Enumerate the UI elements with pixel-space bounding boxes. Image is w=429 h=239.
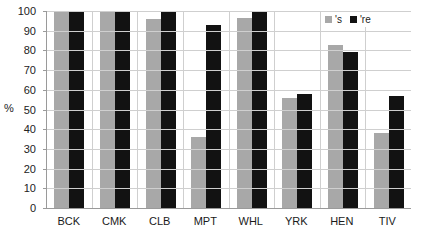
bar	[237, 18, 252, 208]
y-tickmark	[43, 188, 47, 189]
x-tick-label: HEN	[319, 210, 365, 236]
bar	[282, 98, 297, 208]
legend-item[interactable]: 're	[350, 14, 371, 25]
x-tick-label: CMK	[92, 210, 138, 236]
gridline	[47, 110, 411, 111]
y-tick-label: 0	[30, 202, 36, 214]
x-tick-label: TIV	[365, 210, 411, 236]
gridline	[47, 208, 411, 209]
bar	[146, 19, 161, 208]
legend-label: 're	[360, 14, 371, 25]
plot-area	[46, 11, 411, 209]
gridline	[47, 188, 411, 189]
bar-chart: % 1009080706050403020100 BCKCMKCLBMPTWHL…	[0, 0, 429, 239]
y-tick-label: 40	[24, 123, 36, 135]
y-tickmark	[43, 129, 47, 130]
y-tick-label: 100	[18, 5, 36, 17]
y-axis-tick-labels: 1009080706050403020100	[0, 0, 44, 239]
y-tick-label: 80	[24, 44, 36, 56]
x-tick-label: WHL	[228, 210, 274, 236]
legend-swatch-icon	[350, 16, 357, 23]
bar	[343, 52, 358, 208]
bar	[191, 137, 206, 208]
bar	[328, 45, 343, 209]
bar	[297, 94, 312, 208]
y-tickmark	[43, 50, 47, 51]
y-tickmark	[43, 31, 47, 32]
gridline	[47, 169, 411, 170]
y-tick-label: 30	[24, 143, 36, 155]
y-tickmark	[43, 70, 47, 71]
y-tick-label: 50	[24, 104, 36, 116]
gridline	[47, 70, 411, 71]
y-tick-label: 70	[24, 64, 36, 76]
y-tick-label: 60	[24, 84, 36, 96]
y-tickmark	[43, 11, 47, 12]
legend-label: 's	[335, 14, 342, 25]
bar	[206, 25, 221, 208]
y-tick-label: 90	[24, 25, 36, 37]
y-tickmark	[43, 208, 47, 209]
chart-legend: 's're	[322, 12, 374, 27]
bar	[389, 96, 404, 208]
gridline	[47, 149, 411, 150]
y-tick-label: 10	[24, 182, 36, 194]
y-tickmark	[43, 149, 47, 150]
x-tick-label: YRK	[274, 210, 320, 236]
y-tickmark	[43, 90, 47, 91]
x-tick-label: BCK	[46, 210, 92, 236]
legend-swatch-icon	[325, 16, 332, 23]
y-tickmark	[43, 169, 47, 170]
gridline	[47, 90, 411, 91]
x-tick-label: CLB	[137, 210, 183, 236]
gridline	[47, 129, 411, 130]
y-tickmark	[43, 110, 47, 111]
x-axis-tick-labels: BCKCMKCLBMPTWHLYRKHENTIV	[46, 210, 410, 236]
legend-item[interactable]: 's	[325, 14, 342, 25]
gridline	[47, 31, 411, 32]
gridline	[47, 50, 411, 51]
y-tick-label: 20	[24, 163, 36, 175]
x-tick-label: MPT	[183, 210, 229, 236]
bar	[374, 133, 389, 208]
